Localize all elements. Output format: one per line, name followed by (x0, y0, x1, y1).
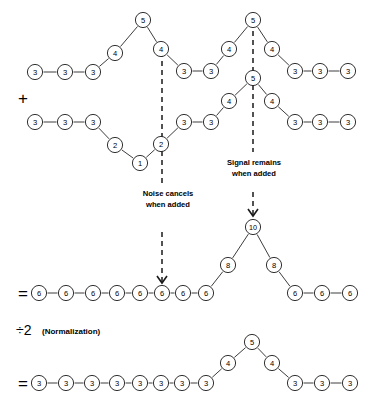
node-value: 6 (320, 289, 324, 298)
sample-node: 6 (85, 285, 100, 300)
node-value: 3 (182, 67, 186, 76)
node-value: 3 (204, 379, 208, 388)
sample-node: 5 (245, 70, 260, 85)
node-value: 3 (209, 118, 213, 127)
sample-node: 3 (312, 63, 327, 78)
node-value: 6 (91, 289, 95, 298)
sample-node: 3 (174, 375, 189, 390)
sample-node: 3 (153, 375, 168, 390)
sample-node: 3 (85, 114, 100, 129)
node-value: 3 (33, 118, 37, 127)
sample-node: 5 (135, 12, 150, 27)
sample-node: 3 (176, 114, 191, 129)
node-value: 3 (90, 379, 94, 388)
sample-node: 6 (198, 285, 213, 300)
node-value: 10 (249, 223, 257, 232)
node-value: 4 (270, 97, 274, 106)
sample-node: 6 (154, 285, 169, 300)
node-value: 6 (160, 289, 164, 298)
sample-node: 6 (342, 285, 357, 300)
sample-node: 3 (176, 63, 191, 78)
sample-node: 1 (132, 155, 147, 170)
node-value: 3 (115, 379, 119, 388)
sample-node: 3 (287, 63, 302, 78)
signal-averaging-diagram: 3334543345433333321233454333666666668108… (0, 0, 372, 411)
node-value: 6 (115, 289, 119, 298)
plus-operator: + (18, 89, 28, 108)
node-value: 4 (159, 45, 163, 54)
sample-node: 8 (220, 257, 235, 272)
sample-node: 3 (203, 63, 218, 78)
sample-node: 3 (287, 114, 302, 129)
node-value: 6 (348, 289, 352, 298)
normalization-text: (Normalization) (42, 327, 101, 336)
sample-node: 4 (107, 45, 122, 60)
signal-remains-annotation-line: Signal remains (227, 158, 281, 167)
sample-node: 6 (175, 285, 190, 300)
node-value: 6 (37, 289, 41, 298)
sample-node: 4 (264, 41, 279, 56)
sample-node: 6 (109, 285, 124, 300)
sample-node: 3 (340, 114, 355, 129)
sample-node: 3 (340, 63, 355, 78)
sample-node: 6 (132, 285, 147, 300)
sample-node: 3 (31, 375, 46, 390)
node-value: 3 (37, 379, 41, 388)
sample-node: 3 (287, 375, 302, 390)
sample-node: 6 (314, 285, 329, 300)
node-value: 3 (63, 68, 67, 77)
sample-node: 3 (27, 114, 42, 129)
normalization-symbol: ÷2 (16, 322, 32, 338)
sample-node: 3 (342, 375, 357, 390)
node-value: 3 (346, 118, 350, 127)
node-value: 3 (318, 67, 322, 76)
sample-node: 3 (85, 64, 100, 79)
node-value: 6 (64, 289, 68, 298)
sample-node: 3 (27, 64, 42, 79)
node-value: 3 (318, 118, 322, 127)
sample-node: 3 (314, 375, 329, 390)
sample-node: 3 (58, 375, 73, 390)
signal-remains-annotation-line: when added (231, 169, 276, 178)
node-value: 3 (293, 379, 297, 388)
sample-node: 3 (198, 375, 213, 390)
sample-node: 3 (57, 114, 72, 129)
node-value: 3 (138, 379, 142, 388)
sample-node: 3 (132, 375, 147, 390)
node-value: 1 (138, 159, 142, 168)
node-value: 4 (227, 45, 231, 54)
node-value: 4 (227, 97, 231, 106)
node-value: 8 (272, 261, 276, 270)
node-value: 3 (64, 379, 68, 388)
node-value: 4 (270, 45, 274, 54)
sample-node: 2 (107, 137, 122, 152)
node-value: 4 (226, 359, 230, 368)
node-value: 6 (138, 289, 142, 298)
node-value: 3 (91, 118, 95, 127)
node-value: 3 (182, 118, 186, 127)
node-value: 3 (209, 67, 213, 76)
node-value: 5 (141, 16, 145, 25)
node-value: 3 (293, 67, 297, 76)
node-value: 5 (250, 338, 254, 347)
node-value: 3 (346, 67, 350, 76)
sample-node: 5 (245, 12, 260, 27)
node-value: 3 (91, 68, 95, 77)
noise-cancels-annotation-line: Noise cancels (143, 189, 194, 198)
node-value: 6 (204, 289, 208, 298)
sample-node: 10 (245, 219, 260, 234)
sample-node: 3 (84, 375, 99, 390)
sample-node: 4 (153, 41, 168, 56)
sample-node: 6 (58, 285, 73, 300)
sample-node: 4 (221, 41, 236, 56)
node-value: 3 (293, 118, 297, 127)
sample-node: 3 (57, 64, 72, 79)
node-value: 8 (226, 261, 230, 270)
node-value: 3 (63, 118, 67, 127)
sample-node: 5 (244, 334, 259, 349)
node-value: 6 (181, 289, 185, 298)
noise-cancels-annotation-line: when added (145, 200, 190, 209)
equals-operator-normalized: = (18, 374, 28, 393)
sample-node: 3 (109, 375, 124, 390)
sample-node: 3 (203, 114, 218, 129)
